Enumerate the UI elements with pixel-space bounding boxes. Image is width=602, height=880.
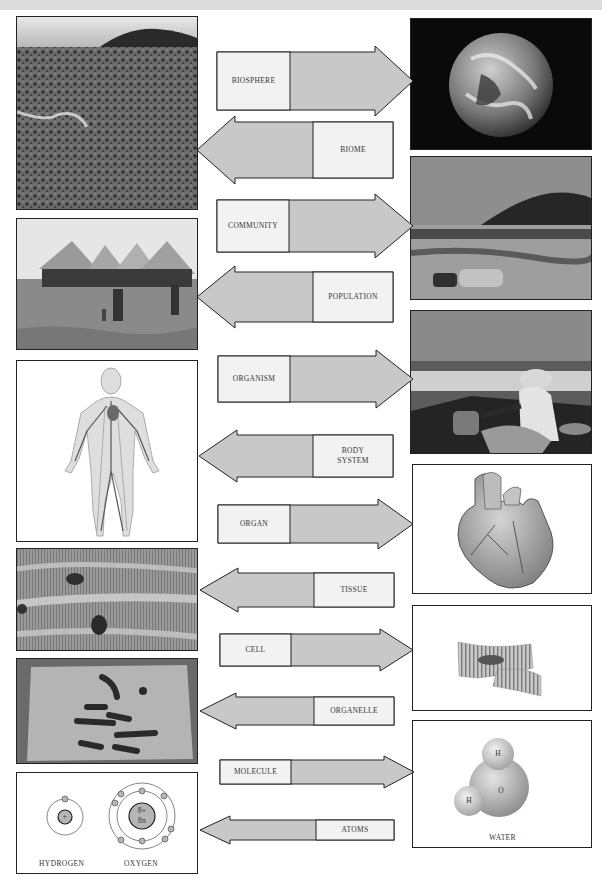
tissue-muscle-micrograph	[16, 548, 198, 651]
organ-heart-illustration	[412, 464, 592, 594]
level-label-organism: ORGANISM	[218, 356, 290, 402]
oxygen-nucleus-label-protons: 8+	[132, 806, 152, 816]
cell-muscle-cell-illustration	[412, 605, 592, 711]
water-hydrogen-left-label: H	[461, 796, 477, 806]
arrow-organelle: ORGANELLE	[200, 693, 394, 729]
biosphere-earth-photo	[410, 18, 592, 150]
molecule-water-illustration: H O H WATER	[412, 720, 592, 848]
organelle-chromosome-micrograph	[16, 658, 198, 764]
hydrogen-nucleus-label: +	[55, 812, 75, 822]
water-caption: WATER	[489, 833, 516, 842]
arrow-body-system: BODY SYSTEM	[199, 430, 393, 482]
arrow-biome: BIOME	[197, 116, 393, 184]
level-label-organelle: ORGANELLE	[314, 697, 394, 725]
arrow-organism: ORGANISM	[218, 350, 413, 408]
organism-woman-photo	[410, 310, 592, 454]
arrow-community: COMMUNITY	[217, 194, 413, 258]
hydrogen-caption: HYDROGEN	[39, 859, 84, 868]
level-label-community: COMMUNITY	[217, 200, 289, 252]
level-label-tissue: TISSUE	[314, 573, 394, 607]
top-bar	[0, 0, 602, 10]
arrow-biosphere: BIOSPHERE	[217, 46, 413, 116]
arrow-organ: ORGAN	[218, 499, 413, 549]
atoms-diagram: + 8+ 8n HYDROGEN OXYGEN	[16, 772, 198, 874]
arrow-molecule: MOLECULE	[220, 756, 414, 788]
oxygen-caption: OXYGEN	[124, 859, 158, 868]
arrow-atoms: ATOMS	[200, 816, 394, 844]
biome-savanna-photo	[16, 16, 198, 210]
level-label-organ: ORGAN	[218, 505, 290, 543]
level-label-atoms: ATOMS	[316, 820, 394, 840]
level-label-biosphere: BIOSPHERE	[217, 52, 290, 110]
level-label-body-system: BODY SYSTEM	[313, 435, 393, 477]
population-village-photo	[16, 218, 198, 350]
level-label-body-system-line2: SYSTEM	[337, 456, 368, 466]
level-label-biome: BIOME	[313, 122, 393, 178]
water-hydrogen-top-label: H	[490, 749, 506, 759]
level-label-population: POPULATION	[313, 272, 393, 322]
arrow-cell: CELL	[220, 629, 413, 671]
body-system-circulatory-illustration	[16, 360, 198, 542]
level-label-molecule: MOLECULE	[220, 760, 291, 784]
oxygen-nucleus-label-neutrons: 8n	[132, 816, 152, 826]
arrow-population: POPULATION	[197, 266, 393, 328]
level-label-cell: CELL	[220, 634, 291, 666]
level-label-body-system-line1: BODY	[342, 446, 364, 456]
community-landscape-photo	[410, 156, 592, 300]
arrow-tissue: TISSUE	[200, 568, 394, 612]
water-oxygen-label: O	[493, 786, 509, 796]
